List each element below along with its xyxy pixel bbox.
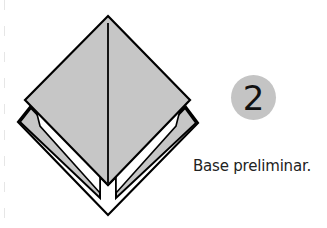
step-caption: Base preliminar. [193, 157, 311, 175]
origami-diagram [0, 0, 327, 228]
step-number-badge: 2 [231, 75, 276, 120]
step-number: 2 [243, 81, 265, 115]
